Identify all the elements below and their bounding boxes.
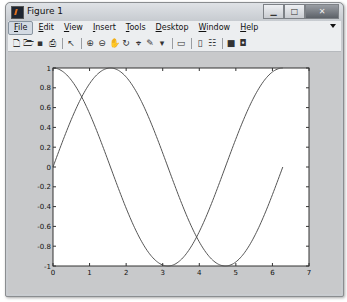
menu-edit[interactable]: Edit	[33, 22, 59, 34]
figure-window: Figure 1 ▁ □ ✕ FileEditViewInsertToolsDe…	[5, 2, 344, 297]
x-tick-label: 2	[124, 269, 128, 277]
x-tick-label: 1	[87, 269, 91, 277]
print-figure-icon[interactable]: ⎙	[47, 38, 57, 48]
y-tick-label: -0.8	[37, 243, 51, 251]
maximize-icon: □	[291, 7, 299, 16]
plot-axes[interactable]: 01234567-1-0.8-0.6-0.4-0.200.20.40.60.81	[8, 52, 341, 294]
axes-box	[53, 68, 309, 266]
y-tick-label: 0.8	[40, 84, 51, 92]
menu-view[interactable]: View	[59, 22, 88, 34]
brush-dropdown-icon[interactable]: ▾	[157, 38, 167, 48]
window-title: Figure 1	[27, 6, 63, 16]
toolbar-separator	[81, 38, 82, 49]
y-tick-label: -0.2	[37, 183, 51, 191]
save-figure-icon[interactable]: ▪	[35, 38, 45, 48]
edit-plot-icon[interactable]: ↖	[66, 38, 76, 48]
y-tick-label: 0.4	[40, 124, 52, 132]
y-tick-label: -0.4	[37, 203, 51, 211]
new-figure-icon[interactable]: 🗋	[11, 38, 21, 48]
zoom-out-icon[interactable]: ⊖	[97, 38, 107, 48]
matlab-figure-icon	[11, 6, 24, 19]
insert-legend-icon[interactable]: ☷	[207, 38, 217, 48]
show-plot-tools-icon[interactable]: ◘	[238, 38, 248, 48]
toolbar-separator	[62, 38, 63, 49]
toolbar-separator	[222, 38, 223, 49]
x-tick-label: 5	[234, 269, 238, 277]
title-bar[interactable]: Figure 1 ▁ □ ✕	[6, 3, 343, 21]
menu-insert[interactable]: Insert	[88, 22, 121, 34]
y-tick-label: 0.6	[40, 104, 52, 112]
close-icon: ✕	[319, 7, 326, 16]
rotate-3d-icon[interactable]: ↻	[121, 38, 131, 48]
y-tick-label: 0.2	[40, 144, 51, 152]
x-tick-label: 0	[51, 269, 55, 277]
y-tick-label: -1	[44, 263, 51, 271]
insert-colorbar-icon[interactable]: ▯	[195, 38, 205, 48]
link-plot-icon[interactable]: ▭	[176, 38, 186, 48]
figure-toolbar: 🗋🗁▪⎙↖⊕⊖✋↻⌖✎▾▭▯☷■◘	[8, 35, 341, 52]
y-tick-label: 1	[47, 65, 51, 73]
figure-canvas: 01234567-1-0.8-0.6-0.4-0.200.20.40.60.81	[8, 52, 341, 294]
y-tick-label: 0	[47, 164, 51, 172]
close-button[interactable]: ✕	[305, 4, 339, 19]
zoom-in-icon[interactable]: ⊕	[85, 38, 95, 48]
menu-help[interactable]: Help	[235, 22, 263, 34]
minimize-button[interactable]: ▁	[263, 4, 284, 19]
toolbar-separator	[172, 38, 173, 49]
y-tick-label: -0.6	[37, 223, 51, 231]
menu-file[interactable]: File	[8, 21, 33, 35]
x-tick-label: 6	[270, 269, 275, 277]
menu-desktop[interactable]: Desktop	[151, 22, 194, 34]
x-tick-label: 3	[160, 269, 164, 277]
pan-icon[interactable]: ✋	[109, 38, 119, 48]
menu-tools[interactable]: Tools	[121, 22, 151, 34]
open-file-icon[interactable]: 🗁	[23, 38, 33, 48]
hide-plot-tools-icon[interactable]: ■	[226, 38, 236, 48]
menu-window[interactable]: Window	[194, 22, 236, 34]
x-tick-label: 7	[307, 269, 311, 277]
brush-icon[interactable]: ✎	[145, 38, 155, 48]
menu-bar: FileEditViewInsertToolsDesktopWindowHelp	[8, 21, 341, 35]
toolbar-separator	[191, 38, 192, 49]
menubar-overflow-icon[interactable]	[330, 24, 336, 28]
data-cursor-icon[interactable]: ⌖	[133, 38, 143, 48]
window-controls: ▁ □ ✕	[263, 4, 339, 18]
x-tick-label: 4	[197, 269, 202, 277]
minimize-icon: ▁	[270, 7, 276, 16]
maximize-button[interactable]: □	[284, 4, 305, 19]
